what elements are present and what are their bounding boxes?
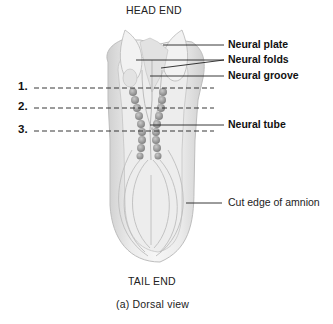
section-number-2: 2.: [18, 100, 28, 112]
label-neural-tube: Neural tube: [228, 118, 286, 130]
section-number-1: 1.: [18, 80, 28, 92]
head-bulge-left: [123, 69, 137, 87]
tail-end-label: TAIL END: [128, 275, 176, 287]
label-neural-folds: Neural folds: [228, 53, 289, 65]
label-neural-plate: Neural plate: [228, 38, 288, 50]
label-neural-groove: Neural groove: [228, 69, 299, 81]
head-end-label: HEAD END: [126, 4, 182, 16]
section-number-3: 3.: [18, 123, 28, 135]
figure-caption: (a) Dorsal view: [116, 298, 189, 310]
label-cut-edge-of-amnion: Cut edge of amnion: [228, 196, 320, 208]
